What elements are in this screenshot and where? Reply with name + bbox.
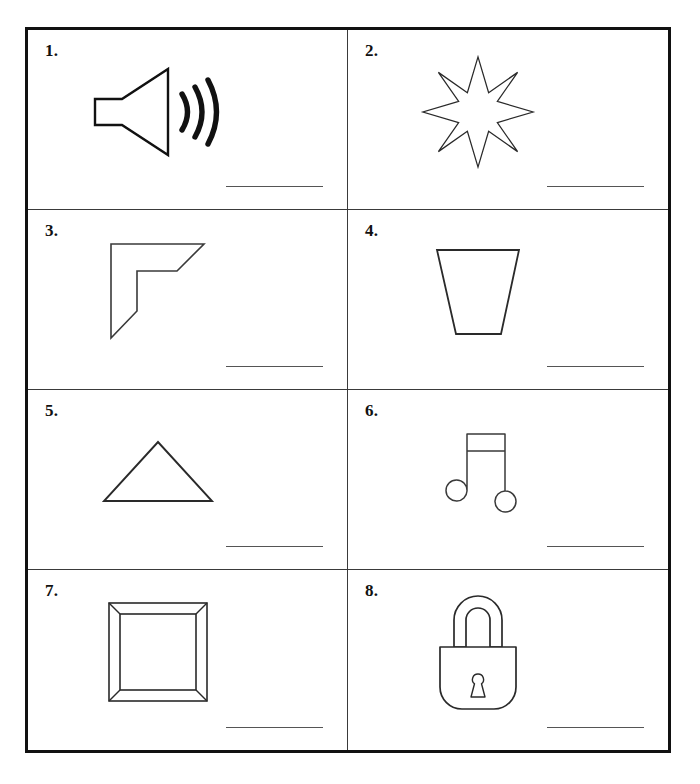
worksheet-cell-6: 6. <box>348 390 668 570</box>
worksheet-cell-8: 8. <box>348 570 668 750</box>
answer-line-3[interactable] <box>226 366 323 367</box>
item-number-7: 7. <box>45 582 58 599</box>
worksheet-cell-2: 2. <box>348 30 668 210</box>
answer-line-6[interactable] <box>547 546 644 547</box>
item-number-2: 2. <box>365 42 378 59</box>
music-note-icon <box>403 414 553 529</box>
answer-line-8[interactable] <box>547 727 644 728</box>
answer-line-4[interactable] <box>547 366 644 367</box>
worksheet-cell-5: 5. <box>28 390 348 570</box>
item-number-1: 1. <box>45 42 58 59</box>
answer-line-1[interactable] <box>226 186 323 187</box>
item-number-4: 4. <box>365 222 378 239</box>
worksheet-cell-4: 4. <box>348 210 668 390</box>
worksheet-cell-7: 7. <box>28 570 348 750</box>
picture-frame-icon <box>83 594 233 709</box>
item-number-6: 6. <box>365 402 378 419</box>
triangle-icon <box>83 414 233 529</box>
worksheet-grid: 1. 2. 3. <box>28 30 668 750</box>
answer-line-2[interactable] <box>547 186 644 187</box>
worksheet-table: 1. 2. 3. <box>25 27 671 753</box>
eight-pointed-star-icon <box>403 54 553 169</box>
item-number-8: 8. <box>365 582 378 599</box>
item-number-3: 3. <box>45 222 58 239</box>
trapezoid-cup-icon <box>403 234 553 349</box>
worksheet-cell-3: 3. <box>28 210 348 390</box>
padlock-icon <box>403 594 553 709</box>
corner-bracket-icon <box>83 234 233 349</box>
answer-line-5[interactable] <box>226 546 323 547</box>
item-number-5: 5. <box>45 402 58 419</box>
speaker-sound-icon <box>83 54 233 169</box>
answer-line-7[interactable] <box>226 727 323 728</box>
worksheet-cell-1: 1. <box>28 30 348 210</box>
